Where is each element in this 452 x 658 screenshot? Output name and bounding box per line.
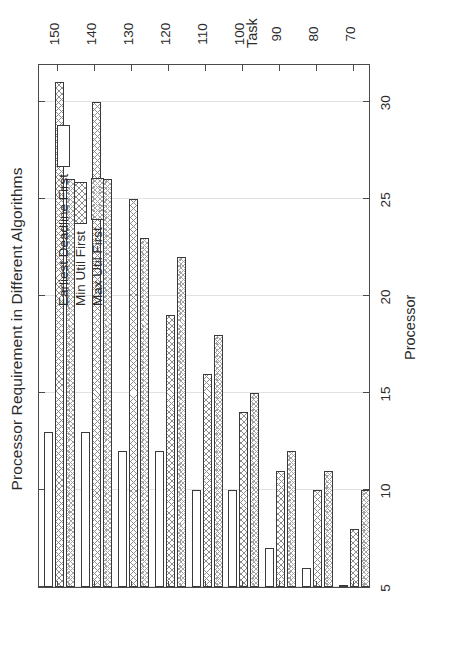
x-tick-label-150: 150: [47, 14, 62, 54]
bar-min-util-first-90: [276, 471, 285, 587]
x-tick-label-80: 80: [306, 14, 321, 54]
bar-min-util-first-70: [350, 529, 359, 587]
y-tick-label-10: 10: [378, 474, 393, 508]
x-axis-tick: [353, 581, 354, 587]
x-axis-tick: [242, 581, 243, 587]
chart-canvas: Processor Requirement in Different Algor…: [0, 0, 452, 658]
y-axis-tick: [363, 101, 369, 102]
bar-earliest-deadline-first-70: [339, 585, 348, 587]
y-axis-tick: [39, 198, 45, 199]
x-axis-tick: [57, 65, 58, 71]
bar-max-util-first-70: [361, 490, 370, 587]
crosshatch-swatch: [74, 182, 87, 224]
bar-earliest-deadline-first-90: [265, 548, 274, 587]
bar-max-util-first-80: [324, 471, 333, 587]
x-axis-tick: [94, 581, 95, 587]
y-axis-tick: [363, 392, 369, 393]
legend-item-max-util-first: Max Util First: [90, 125, 105, 306]
x-axis-tick: [279, 65, 280, 71]
x-tick-label-110: 110: [195, 14, 210, 54]
x-axis-tick: [205, 581, 206, 587]
chart-legend: Earliest Deadline FirstMin Util FirstMax…: [56, 125, 105, 306]
y-tick-label-25: 25: [378, 183, 393, 217]
bar-earliest-deadline-first-80: [302, 568, 311, 587]
y-axis-tick: [39, 295, 45, 296]
bar-earliest-deadline-first-140: [81, 432, 90, 587]
x-axis-tick: [168, 581, 169, 587]
y-axis-tick: [363, 198, 369, 199]
x-tick-label-120: 120: [158, 14, 173, 54]
legend-item-earliest-deadline-first: Earliest Deadline First: [56, 125, 71, 306]
bar-earliest-deadline-first-130: [118, 451, 127, 587]
y-tick-label-5: 5: [378, 571, 393, 605]
bar-max-util-first-130: [140, 238, 149, 587]
x-axis-tick: [242, 65, 243, 71]
y-axis-title: Processor: [402, 295, 418, 360]
bar-earliest-deadline-first-110: [192, 490, 201, 587]
empty-swatch: [57, 125, 70, 167]
x-axis-tick: [57, 581, 58, 587]
bar-earliest-deadline-first-150: [44, 432, 53, 587]
legend-label: Earliest Deadline First: [56, 174, 71, 306]
x-tick-label-90: 90: [269, 14, 284, 54]
bar-min-util-first-130: [129, 199, 138, 587]
chart-title: Processor Requirement in Different Algor…: [8, 0, 26, 658]
legend-label: Min Util First: [73, 231, 88, 306]
y-tick-label-15: 15: [378, 377, 393, 411]
bar-earliest-deadline-first-100: [228, 490, 237, 587]
figure: Processor Requirement in Different Algor…: [0, 0, 452, 658]
x-tick-label-140: 140: [84, 14, 99, 54]
x-axis-title: Task: [244, 18, 260, 48]
x-axis-tick: [316, 581, 317, 587]
grid-line: [39, 101, 369, 102]
x-axis-tick: [316, 65, 317, 71]
y-axis-tick: [363, 295, 369, 296]
bar-min-util-first-100: [239, 412, 248, 587]
x-axis-tick: [131, 581, 132, 587]
legend-label: Max Util First: [90, 227, 105, 306]
x-tick-label-70: 70: [343, 14, 358, 54]
bar-min-util-first-110: [203, 374, 212, 587]
bar-max-util-first-110: [214, 335, 223, 587]
x-axis-tick: [168, 65, 169, 71]
bar-max-util-first-120: [177, 257, 186, 587]
bar-min-util-first-80: [313, 490, 322, 587]
x-axis-tick: [353, 65, 354, 71]
y-tick-label-20: 20: [378, 280, 393, 314]
x-axis-tick: [131, 65, 132, 71]
x-axis-tick: [94, 65, 95, 71]
x-axis-tick: [205, 65, 206, 71]
bar-max-util-first-90: [287, 451, 296, 587]
legend-item-min-util-first: Min Util First: [73, 125, 88, 306]
x-tick-label-130: 130: [121, 14, 136, 54]
bar-min-util-first-120: [166, 315, 175, 587]
y-tick-label-30: 30: [378, 86, 393, 120]
y-axis-tick: [39, 392, 45, 393]
bar-earliest-deadline-first-120: [155, 451, 164, 587]
dotted-swatch: [91, 178, 104, 220]
bar-max-util-first-100: [250, 393, 259, 587]
rotated-figure: Processor Requirement in Different Algor…: [0, 0, 452, 658]
y-axis-tick: [39, 101, 45, 102]
x-axis-tick: [279, 581, 280, 587]
